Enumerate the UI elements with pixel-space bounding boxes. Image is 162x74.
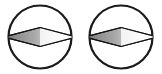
symbol-pair-graphic [0, 0, 162, 74]
illustration-canvas [0, 0, 162, 74]
